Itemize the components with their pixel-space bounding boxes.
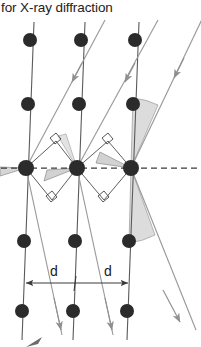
d-label-left: d — [50, 263, 58, 279]
figure-page: for X-ray diffraction — [0, 0, 201, 347]
atom-r5c3 — [120, 304, 134, 318]
atom-r3c3 — [123, 160, 139, 176]
lattice-plane-1 — [22, 22, 34, 340]
diffracted-arrow-2 — [105, 298, 112, 330]
right-angle-mark-2 — [46, 191, 57, 202]
incident-arrow-2 — [125, 63, 135, 82]
clipped-angle-arrow-icon — [26, 337, 46, 347]
atom-r1c2 — [74, 33, 88, 47]
d-dimension-group — [26, 276, 128, 291]
bragg-diffraction-figure: d d — [0, 0, 201, 347]
atom-r2c2 — [72, 97, 86, 111]
atom-r2c3 — [126, 97, 140, 111]
atom-r4c1 — [17, 234, 31, 248]
d-label-right: d — [104, 263, 112, 279]
atom-r3c2 — [69, 160, 85, 176]
atom-r2c1 — [21, 97, 35, 111]
incident-ray-arrowheads — [72, 58, 184, 82]
atom-r1c1 — [23, 33, 37, 47]
right-angle-mark-3 — [102, 133, 113, 144]
diffracted-arrow-1 — [54, 298, 61, 330]
atom-r4c3 — [122, 234, 136, 248]
atom-r5c1 — [15, 304, 29, 318]
incident-ray-3 — [131, 13, 201, 168]
clipped-angle-glyph — [26, 337, 46, 347]
atom-r5c2 — [66, 304, 80, 318]
incident-ray-2 — [77, 20, 158, 168]
lattice-plane-group — [22, 22, 139, 340]
atom-r4c2 — [68, 234, 82, 248]
atom-r1c3 — [128, 33, 142, 47]
incident-arrow-1 — [72, 63, 82, 82]
atom-r3c1 — [18, 160, 34, 176]
incident-arrow-3 — [174, 58, 184, 78]
lattice-plane-3 — [127, 22, 139, 340]
diffracted-ray-group — [26, 168, 196, 335]
diffracted-ray-3 — [131, 168, 196, 330]
atom-group — [15, 33, 142, 318]
diffracted-arrow-3 — [163, 290, 180, 322]
